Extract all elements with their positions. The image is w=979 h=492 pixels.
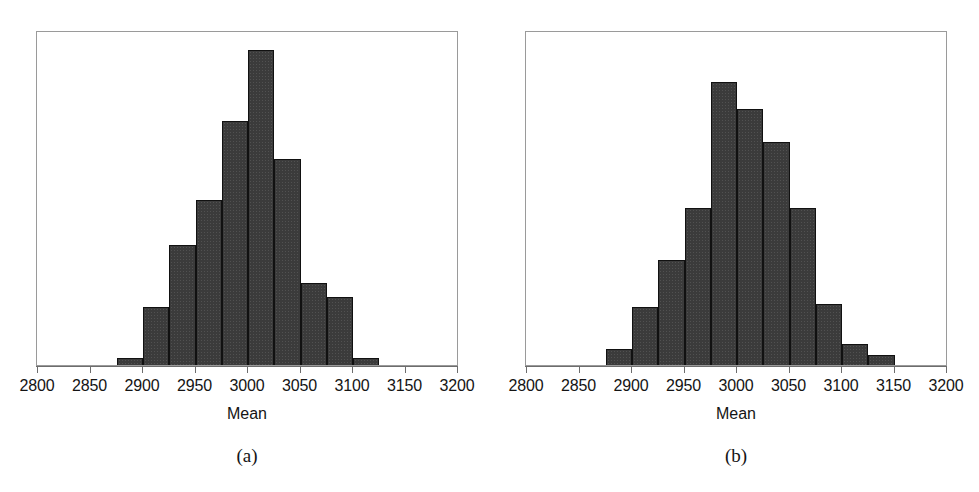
x-axis-tick [90, 366, 91, 373]
histogram-bar [301, 283, 327, 365]
x-axis-tick [405, 366, 406, 373]
x-axis-title-a: Mean [227, 406, 267, 422]
x-axis-tick-label: 3100 [824, 378, 859, 394]
x-axis-tick-label: 2850 [561, 378, 596, 394]
x-axis-tick-label: 3100 [335, 378, 370, 394]
panel-a: 280028502900295030003050310031503200 Mea… [0, 0, 489, 492]
plot-area-b [526, 32, 946, 365]
panel-caption-a: (a) [236, 446, 257, 465]
x-axis-tick-label: 2900 [125, 378, 160, 394]
x-axis-tick [247, 366, 248, 373]
x-axis-tick [736, 366, 737, 373]
x-axis-tick [526, 366, 527, 373]
panel-caption-b: (b) [725, 446, 747, 465]
histogram-bar [117, 358, 143, 365]
histogram-bar [606, 349, 632, 365]
histogram-bar [816, 304, 842, 365]
x-axis-tick [631, 366, 632, 373]
histogram-bar [685, 208, 711, 365]
histogram-bar [222, 121, 248, 365]
histogram-bar [763, 142, 789, 365]
histogram-bar [737, 109, 763, 365]
x-axis-tick [352, 366, 353, 373]
x-axis-tick-label: 3050 [282, 378, 317, 394]
x-axis-tick-label: 2800 [20, 378, 55, 394]
x-axis-tick-label: 2950 [666, 378, 701, 394]
x-axis-tick-label: 3200 [440, 378, 475, 394]
x-axis-tick [894, 366, 895, 373]
x-axis-tick [37, 366, 38, 373]
plot-area-a [37, 32, 457, 365]
x-axis-tick-label: 3150 [876, 378, 911, 394]
histogram-bar [658, 260, 684, 365]
x-axis-tick [579, 366, 580, 373]
x-axis-tick [142, 366, 143, 373]
panel-b: 280028502900295030003050310031503200 Mea… [489, 0, 979, 492]
histogram-bar [868, 355, 894, 365]
histogram-bar [143, 307, 169, 365]
histogram-bar [196, 200, 222, 365]
x-axis-tick [841, 366, 842, 373]
histogram-bar [353, 358, 379, 365]
x-axis-tick-label: 3000 [230, 378, 265, 394]
plot-frame-a [36, 31, 458, 366]
x-axis-tick-label: 2900 [614, 378, 649, 394]
histogram-bar [169, 245, 195, 365]
x-axis-tick-label: 3150 [387, 378, 422, 394]
histogram-bar [632, 307, 658, 365]
x-axis-title-b: Mean [716, 406, 756, 422]
histogram-bar [790, 208, 816, 365]
x-axis-tick [684, 366, 685, 373]
histogram-bar [327, 297, 353, 365]
histogram-bar [711, 82, 737, 365]
x-axis-tick-label: 2950 [177, 378, 212, 394]
histogram-bar [842, 344, 868, 365]
x-axis-tick-label: 2800 [509, 378, 544, 394]
x-axis-tick-label: 3200 [929, 378, 964, 394]
x-axis-tick [946, 366, 947, 373]
plot-frame-b [525, 31, 947, 366]
x-axis-tick-label: 3050 [771, 378, 806, 394]
x-axis-tick [789, 366, 790, 373]
x-axis-tick-label: 3000 [719, 378, 754, 394]
figure-two-histograms: 280028502900295030003050310031503200 Mea… [0, 0, 979, 492]
x-axis-tick [195, 366, 196, 373]
x-axis-tick-label: 2850 [72, 378, 107, 394]
x-axis-tick [457, 366, 458, 373]
histogram-bar [248, 50, 274, 365]
histogram-bar [274, 159, 300, 365]
x-axis-tick [300, 366, 301, 373]
